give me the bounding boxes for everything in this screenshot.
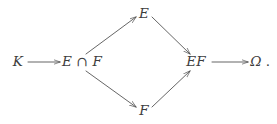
node-F: F [139, 104, 149, 118]
node-omega-label: Ω [250, 53, 261, 69]
edge-EcapF-to-E [86, 17, 136, 54]
commutative-diagram-canvas: K E ∩ F E F EF Ω. [0, 0, 277, 124]
node-EF: EF [186, 55, 206, 69]
edge-EcapF-to-F [86, 71, 136, 107]
node-E-cap-F: E ∩ F [62, 55, 102, 69]
edge-F-to-EF [152, 71, 190, 107]
node-K: K [13, 55, 23, 69]
node-omega: Ω. [250, 55, 270, 69]
node-E: E [139, 7, 149, 21]
trailing-period: . [262, 53, 271, 69]
edge-E-to-EF [152, 17, 190, 54]
